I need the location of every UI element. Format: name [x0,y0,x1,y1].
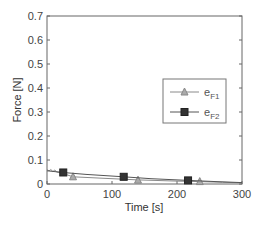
square-marker [185,177,192,184]
series-eF2 [47,169,242,184]
force-vs-time-chart: 00.10.20.30.40.50.60.7 0100200300 Time [… [0,0,265,226]
y-tick-label: 0 [37,178,43,190]
series-layer [47,169,242,185]
y-tick-label: 0.7 [28,10,43,22]
y-tick-label: 0.6 [28,34,43,46]
x-tick-label: 100 [103,188,121,200]
y-tick-label: 0.5 [28,58,43,70]
square-marker [181,109,188,116]
x-tick-label: 200 [168,188,186,200]
y-tick-label: 0.1 [28,154,43,166]
legend: eF1eF2 [163,79,226,123]
y-tick-label: 0.4 [28,82,43,94]
y-axis-label: Force [N] [11,77,23,122]
x-tick-label: 0 [44,188,50,200]
y-tick-label: 0.3 [28,106,43,118]
x-axis-label: Time [s] [125,201,164,213]
series-eF1 [47,170,242,185]
square-marker [60,169,67,176]
y-tick-label: 0.2 [28,130,43,142]
square-marker [120,173,127,180]
series-line [47,170,242,183]
x-tick-label: 300 [233,188,251,200]
